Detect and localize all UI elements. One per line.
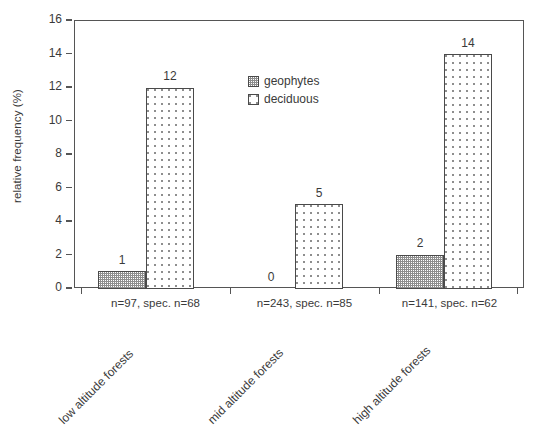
y-tick-mark	[66, 254, 72, 255]
bar-value-deciduous-high: 14	[444, 36, 492, 50]
y-tick-label: 2	[55, 247, 62, 261]
legend: geophytes deciduous	[248, 73, 319, 109]
y-tick-mark	[66, 120, 72, 121]
y-tick-label: 16	[49, 12, 62, 26]
bar-value-deciduous-low: 12	[146, 69, 194, 83]
category-label-low-altitude-forests: low altitude forests	[56, 347, 136, 427]
legend-item-geophytes[interactable]: geophytes	[248, 73, 319, 89]
y-tick-mark	[66, 287, 72, 288]
bar-deciduous-mid-altitude-forests[interactable]	[295, 204, 343, 289]
y-tick-label: 6	[55, 180, 62, 194]
legend-swatch-geophytes-icon	[248, 76, 259, 87]
y-axis-title: relative frequency (%)	[11, 56, 23, 236]
y-tick-label: 10	[49, 113, 62, 127]
y-tick-label: 12	[49, 79, 62, 93]
y-tick-mark	[66, 220, 72, 221]
legend-swatch-deciduous-icon	[248, 94, 259, 105]
y-tick-mark	[66, 153, 72, 154]
y-tick-mark	[66, 53, 72, 54]
y-tick-mark	[66, 19, 72, 20]
legend-label-geophytes: geophytes	[264, 75, 319, 87]
bar-value-geophytes-mid: 0	[247, 270, 295, 284]
y-tick-mark	[66, 86, 72, 87]
bar-value-geophytes-low: 1	[98, 253, 146, 267]
category-label-mid-altitude-forests: mid altitude forests	[205, 346, 286, 427]
bar-value-geophytes-high: 2	[396, 236, 444, 250]
bar-value-deciduous-mid: 5	[295, 186, 343, 200]
y-tick-label: 4	[55, 213, 62, 227]
legend-item-deciduous[interactable]: deciduous	[248, 91, 319, 107]
x-tick-mark	[230, 288, 231, 294]
group-nlabel-mid-altitude-forests: n=243, spec. n=85	[230, 297, 379, 309]
bar-deciduous-low-altitude-forests[interactable]	[146, 88, 194, 289]
bar-deciduous-high-altitude-forests[interactable]	[444, 54, 492, 289]
group-nlabel-low-altitude-forests: n=97, spec. n=68	[81, 297, 230, 309]
x-tick-mark	[81, 288, 82, 294]
category-label-high-altitude-forests: high altitude forests	[350, 343, 433, 426]
x-tick-mark	[517, 288, 518, 294]
y-tick-label: 0	[55, 280, 62, 294]
group-nlabel-high-altitude-forests: n=141, spec. n=62	[375, 297, 524, 309]
bar-geophytes-low-altitude-forests[interactable]	[98, 271, 146, 289]
y-tick-label: 8	[55, 146, 62, 160]
y-tick-label: 14	[49, 46, 62, 60]
x-tick-mark	[379, 288, 380, 294]
bar-chart: relative frequency (%) 16 14 12 10 8 6 4	[0, 0, 542, 431]
y-tick-mark	[66, 187, 72, 188]
bar-geophytes-high-altitude-forests[interactable]	[396, 255, 444, 289]
legend-label-deciduous: deciduous	[264, 93, 319, 105]
